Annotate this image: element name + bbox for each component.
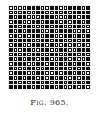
open-square <box>82 25 86 29</box>
filled-square <box>55 71 59 75</box>
filled-square <box>82 15 86 19</box>
open-square <box>50 57 54 61</box>
open-square <box>68 39 72 43</box>
filled-square <box>82 53 86 57</box>
filled-square <box>14 62 18 66</box>
open-square <box>32 85 36 89</box>
open-square <box>55 85 59 89</box>
filled-square <box>23 62 27 66</box>
open-square <box>45 71 49 75</box>
filled-square <box>64 71 68 75</box>
open-square <box>36 39 40 43</box>
open-square <box>14 76 18 80</box>
open-square <box>86 85 90 89</box>
filled-square <box>41 62 45 66</box>
open-square <box>27 53 31 57</box>
filled-square <box>64 43 68 47</box>
filled-square <box>73 39 77 43</box>
filled-square <box>45 57 49 61</box>
filled-square <box>50 29 54 33</box>
filled-square <box>18 43 22 47</box>
filled-square <box>9 29 13 33</box>
filled-square <box>73 76 77 80</box>
open-square <box>41 67 45 71</box>
open-square <box>86 62 90 66</box>
filled-square <box>82 29 86 33</box>
filled-square <box>9 15 13 19</box>
filled-square <box>82 48 86 52</box>
open-square <box>64 6 68 10</box>
open-square <box>73 34 77 38</box>
open-square <box>73 71 77 75</box>
filled-square <box>59 25 63 29</box>
filled-square <box>82 11 86 15</box>
filled-square <box>32 29 36 33</box>
open-square <box>9 43 13 47</box>
filled-square <box>27 6 31 10</box>
filled-square <box>73 20 77 24</box>
open-square <box>59 6 63 10</box>
open-square <box>14 39 18 43</box>
filled-square <box>82 76 86 80</box>
open-square <box>68 20 72 24</box>
filled-square <box>59 29 63 33</box>
filled-square <box>77 71 81 75</box>
open-square <box>50 71 54 75</box>
filled-square <box>59 48 63 52</box>
open-square <box>27 71 31 75</box>
open-square <box>32 39 36 43</box>
filled-square <box>14 53 18 57</box>
filled-square <box>9 25 13 29</box>
open-square <box>64 39 68 43</box>
open-square <box>86 43 90 47</box>
open-square <box>14 15 18 19</box>
filled-square <box>23 25 27 29</box>
open-square <box>9 34 13 38</box>
filled-square <box>36 53 40 57</box>
open-square <box>55 29 59 33</box>
open-square <box>18 53 22 57</box>
filled-square <box>50 67 54 71</box>
filled-square <box>18 76 22 80</box>
filled-square <box>77 34 81 38</box>
filled-square <box>68 6 72 10</box>
filled-square <box>86 48 90 52</box>
filled-square <box>64 20 68 24</box>
open-square <box>77 67 81 71</box>
open-square <box>32 11 36 15</box>
open-square <box>50 39 54 43</box>
open-square <box>27 81 31 85</box>
filled-square <box>32 34 36 38</box>
open-square <box>45 62 49 66</box>
open-square <box>32 25 36 29</box>
filled-square <box>77 6 81 10</box>
filled-square <box>86 6 90 10</box>
filled-square <box>73 15 77 19</box>
open-square <box>59 15 63 19</box>
open-square <box>18 6 22 10</box>
filled-square <box>86 15 90 19</box>
filled-square <box>86 11 90 15</box>
filled-square <box>36 20 40 24</box>
open-square <box>41 25 45 29</box>
pattern-grid <box>8 5 91 90</box>
open-square <box>41 53 45 57</box>
open-square <box>41 29 45 33</box>
open-square <box>77 53 81 57</box>
filled-square <box>27 76 31 80</box>
filled-square <box>68 81 72 85</box>
filled-square <box>64 48 68 52</box>
filled-square <box>18 15 22 19</box>
filled-square <box>45 15 49 19</box>
open-square <box>50 11 54 15</box>
open-square <box>77 57 81 61</box>
filled-square <box>59 57 63 61</box>
open-square <box>50 48 54 52</box>
filled-square <box>27 67 31 71</box>
filled-square <box>32 6 36 10</box>
open-square <box>23 57 27 61</box>
filled-square <box>50 43 54 47</box>
filled-square <box>86 76 90 80</box>
open-square <box>59 11 63 15</box>
open-square <box>55 76 59 80</box>
